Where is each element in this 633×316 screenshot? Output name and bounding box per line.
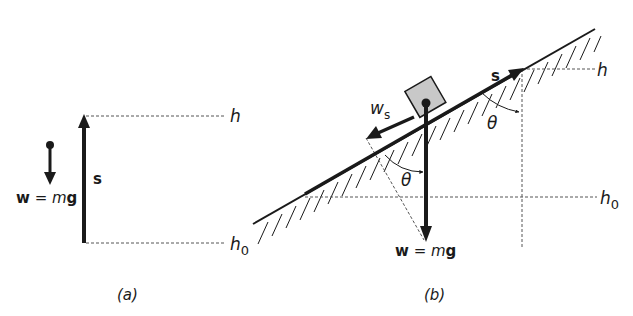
label-h0-a: h0 <box>230 234 249 258</box>
caption-a: (a) <box>117 286 138 304</box>
panel-a: h h0 s w = mg (a) <box>16 106 249 304</box>
label-weight-b: w = mg <box>395 242 456 260</box>
work-energy-diagram: h h0 s w = mg (a) <box>0 0 633 316</box>
label-h-a: h <box>230 106 241 126</box>
label-ws: ws <box>370 98 390 122</box>
label-theta-lower: θ <box>401 170 412 190</box>
label-h0-b: h0 <box>600 188 619 212</box>
panel-b: h h0 s ws θ θ w = mg (b) <box>253 29 619 304</box>
label-theta-upper: θ <box>487 113 498 133</box>
angle-arc-upper <box>482 93 519 112</box>
label-s-b: s <box>491 67 500 85</box>
weight-arrowhead-b <box>420 226 432 242</box>
label-weight-a: w = mg <box>16 189 77 207</box>
ground-hatching <box>258 36 601 244</box>
label-s-a: s <box>93 170 102 188</box>
caption-b: (b) <box>424 286 445 304</box>
label-h-b: h <box>597 60 608 80</box>
weight-arrowhead-a <box>44 172 56 185</box>
